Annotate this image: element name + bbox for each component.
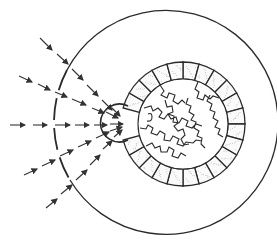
stipple-dot (139, 89, 140, 90)
stipple-dot (161, 179, 162, 180)
stipple-dot (214, 163, 215, 164)
inner-cells (138, 79, 228, 169)
stipple-dot (138, 142, 139, 143)
stipple-dot (130, 97, 131, 98)
stipple-dot (152, 167, 153, 168)
stipple-dot (238, 134, 239, 135)
stipple-dot (179, 180, 180, 181)
stipple-dot (167, 173, 168, 174)
stipple-dot (152, 161, 153, 162)
stipple-dot (180, 70, 181, 71)
stipple-dot (216, 171, 217, 172)
stipple-dot (226, 88, 227, 89)
stipple-dot (236, 104, 237, 105)
stipple-dot (143, 96, 144, 97)
stipple-dot (130, 105, 131, 106)
stipple-dot (213, 164, 214, 165)
stipple-dot (226, 93, 227, 94)
stipple-dot (231, 98, 232, 99)
stipple-dot (229, 144, 230, 145)
stipple-dot (160, 176, 161, 177)
stipple-dot (205, 167, 206, 168)
stipple-dot (139, 152, 140, 153)
stipple-dot (227, 86, 228, 87)
stipple-dot (144, 96, 145, 97)
stipple-dot (199, 75, 200, 76)
stipple-dot (180, 68, 181, 69)
stipple-dot (136, 143, 137, 144)
stipple-dot (138, 88, 139, 89)
stipple-dot (230, 158, 231, 159)
arrow-streams (10, 38, 123, 208)
stipple-dot (237, 115, 238, 116)
stipple-dot (150, 75, 151, 76)
stipple-dot (230, 100, 231, 101)
stipple-dot (135, 147, 136, 148)
stipple-dot (132, 104, 133, 105)
stipple-dot (226, 92, 227, 93)
stipple-dot (225, 145, 226, 146)
stipple-dot (184, 76, 185, 77)
stipple-dot (235, 149, 236, 150)
stipple-dot (228, 103, 229, 104)
stipple-dot (213, 81, 214, 82)
stipple-dot (235, 141, 236, 142)
stipple-dot (191, 74, 192, 75)
stipple-dot (188, 171, 189, 172)
stipple-dot (187, 68, 188, 69)
stipple-dot (159, 173, 160, 174)
stipple-dot (135, 148, 136, 149)
stipple-dot (230, 143, 231, 144)
stipple-dot (190, 73, 191, 74)
stipple-dot (138, 155, 139, 156)
stipple-dot (211, 163, 212, 164)
stipple-dot (186, 66, 187, 67)
stipple-dot (172, 71, 173, 72)
stipple-dot (214, 85, 215, 86)
stipple-dot (144, 88, 145, 89)
stipple-dot (144, 168, 145, 169)
stipple-dot (159, 71, 160, 72)
inner-core-boundary (138, 79, 228, 169)
stipple-dot (219, 91, 220, 92)
stipple-dot (139, 153, 140, 154)
stipple-dot (140, 151, 141, 152)
stipple-dot (234, 143, 235, 144)
stipple-dot (236, 106, 237, 107)
stipple-dot (227, 105, 228, 106)
stipple-dot (221, 158, 222, 159)
stipple-dot (192, 76, 193, 77)
stipple-dot (241, 131, 242, 132)
stipple-dot (228, 105, 229, 106)
stipple-dot (198, 171, 199, 172)
stipple-dot (161, 73, 162, 74)
stipple-dot (166, 171, 167, 172)
stipple-dot (216, 164, 217, 165)
stipple-dot (233, 119, 234, 120)
stipple-dot (235, 118, 236, 119)
stipple-dot (176, 177, 177, 178)
stipple-dot (213, 87, 214, 88)
stipple-dot (142, 89, 143, 90)
stipple-dot (234, 127, 235, 128)
stipple-dot (175, 176, 176, 177)
stipple-dot (207, 177, 208, 178)
stipple-dot (172, 171, 173, 172)
stipple-dot (232, 143, 233, 144)
stipple-dot (236, 117, 237, 118)
stipple-dot (218, 164, 219, 165)
stipple-dot (139, 157, 140, 158)
stipple-dot (206, 76, 207, 77)
stipple-dot (232, 128, 233, 129)
stipple-dot (173, 73, 174, 74)
stipple-dot (180, 182, 181, 183)
stipple-dot (194, 175, 195, 176)
stipple-dot (195, 67, 196, 68)
stipple-dot (228, 87, 229, 88)
stipple-dot (237, 133, 238, 134)
stipple-dot (205, 74, 206, 75)
stipple-dot (205, 70, 206, 71)
stipple-dot (128, 142, 129, 143)
stipple-dot (224, 97, 225, 98)
stipple-dot (130, 141, 131, 142)
